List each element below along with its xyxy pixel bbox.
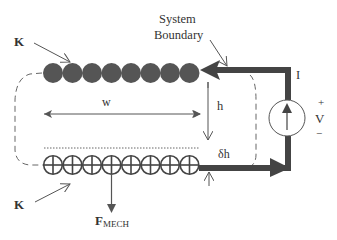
label-delta-h: δh: [218, 147, 230, 161]
label-force-main: F: [95, 213, 103, 228]
conductor-filled: [82, 63, 102, 83]
conductor-cross: [63, 156, 82, 175]
conductor-filled: [102, 63, 122, 83]
sheet-current-actuator-diagram: K K System Boundary I w h δh + V − FMECH: [0, 0, 337, 240]
label-k-bottom: K: [14, 197, 25, 212]
conductor-cross: [122, 156, 141, 175]
conductor-cross: [102, 156, 121, 175]
conductor-filled: [63, 63, 83, 83]
conductor-cross: [44, 156, 63, 175]
label-plus: +: [318, 96, 324, 108]
bottom-conductor-row: [44, 156, 199, 175]
k-top-pointer: [34, 43, 70, 62]
label-force: FMECH: [95, 213, 129, 229]
label-system: System: [159, 12, 196, 26]
label-width: w: [102, 95, 111, 109]
system-boundary: [15, 73, 44, 165]
label-force-sub: MECH: [103, 219, 130, 229]
top-wire: [216, 70, 288, 100]
label-current: I: [296, 68, 300, 82]
conductor-cross: [141, 156, 160, 175]
conductor-filled: [160, 63, 180, 83]
label-height: h: [217, 99, 224, 113]
conductor-cross: [83, 156, 102, 175]
system-boundary-right: [250, 75, 256, 167]
top-conductor-row: [43, 63, 200, 83]
k-bottom-pointer: [35, 184, 70, 202]
conductor-filled: [121, 63, 141, 83]
label-boundary: Boundary: [154, 28, 204, 42]
label-k-top: K: [14, 34, 25, 49]
conductor-filled: [43, 63, 63, 83]
conductor-filled: [141, 63, 161, 83]
conductor-cross: [180, 156, 199, 175]
conductor-cross: [161, 156, 180, 175]
label-voltage: V: [315, 111, 325, 126]
conductor-filled: [180, 63, 200, 83]
label-minus: −: [316, 127, 322, 139]
